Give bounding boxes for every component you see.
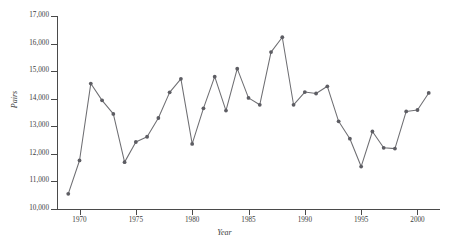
data-point	[89, 82, 93, 86]
data-point	[348, 137, 352, 141]
data-point	[371, 130, 375, 134]
data-point	[325, 84, 329, 88]
data-point	[202, 106, 206, 110]
data-point	[416, 108, 420, 112]
data-point	[190, 142, 194, 146]
data-point	[179, 77, 183, 81]
data-point	[280, 35, 284, 39]
data-point	[134, 140, 138, 144]
data-point	[427, 91, 431, 95]
data-point	[303, 90, 307, 94]
data-point	[314, 92, 318, 96]
data-point	[382, 146, 386, 150]
data-point	[292, 103, 296, 107]
line-chart: 10,00011,00012,00013,00014,00015,00016,0…	[0, 0, 449, 244]
data-point	[123, 160, 127, 164]
data-point	[224, 109, 228, 113]
data-point	[168, 90, 172, 94]
data-point	[404, 110, 408, 114]
data-point	[258, 103, 262, 107]
data-point	[337, 119, 341, 123]
series-markers	[66, 35, 430, 195]
data-point	[100, 98, 104, 102]
data-point	[213, 75, 217, 79]
data-point	[359, 165, 363, 169]
data-point	[145, 135, 149, 139]
data-point	[269, 50, 273, 54]
data-point	[235, 67, 239, 71]
data-point	[156, 116, 160, 120]
data-point	[66, 192, 70, 196]
series-line-pairs	[68, 37, 428, 194]
plot-area	[0, 0, 449, 244]
data-point	[78, 159, 82, 163]
data-point	[111, 112, 115, 116]
data-point	[393, 147, 397, 151]
data-point	[247, 96, 251, 100]
